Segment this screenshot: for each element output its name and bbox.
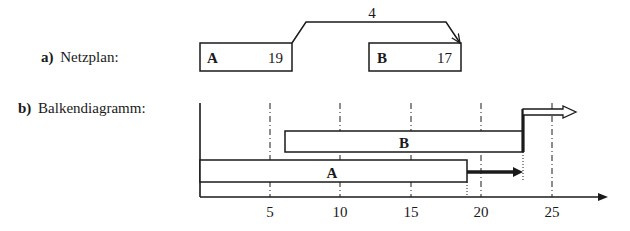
node-b-name: B bbox=[377, 50, 387, 66]
tick-25: 25 bbox=[545, 204, 560, 220]
link-lag-label: 4 bbox=[368, 5, 376, 21]
bar-a-label: A bbox=[327, 165, 338, 181]
x-axis-arrowhead bbox=[598, 193, 608, 201]
node-a: A 19 bbox=[200, 43, 292, 71]
node-a-name: A bbox=[207, 50, 218, 66]
network-plan: A 19 B 17 4 bbox=[200, 5, 461, 71]
node-b: B 17 bbox=[369, 43, 461, 71]
relation-arrow-a bbox=[467, 167, 523, 177]
bar-a: A bbox=[200, 160, 467, 182]
bar-b: B bbox=[285, 131, 523, 152]
diagram-canvas: A 19 B 17 4 5 10 15 20 25 bbox=[0, 0, 630, 231]
bar-b-label: B bbox=[399, 135, 409, 151]
tick-10: 10 bbox=[333, 204, 348, 220]
tick-15: 15 bbox=[404, 204, 419, 220]
tick-5: 5 bbox=[266, 204, 274, 220]
node-a-duration: 19 bbox=[268, 50, 283, 66]
x-tick-labels: 5 10 15 20 25 bbox=[266, 204, 559, 220]
link-arrow bbox=[292, 22, 460, 43]
node-b-duration: 17 bbox=[437, 50, 453, 66]
gantt-chart: 5 10 15 20 25 B A bbox=[200, 103, 608, 220]
relation-arrow-b bbox=[523, 106, 576, 152]
tick-20: 20 bbox=[474, 204, 489, 220]
